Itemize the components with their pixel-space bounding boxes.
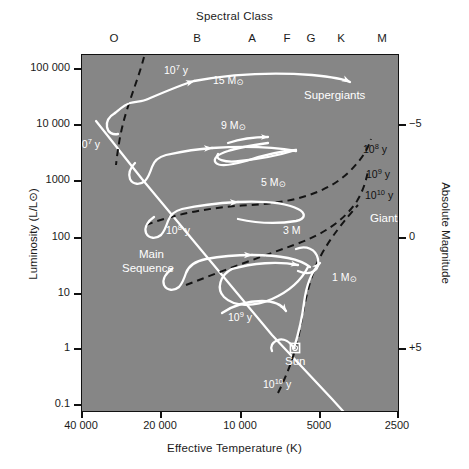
annotation-isochrone-1e10-low: 1010 y — [263, 378, 291, 390]
sun-symbol-icon: ⊙ — [236, 77, 243, 87]
x-axis-title: Effective Temperature (K) — [0, 442, 469, 454]
hr-diagram-figure: Spectral Class Effective Temperature (K)… — [0, 0, 469, 469]
annotation-mass-15-msun: 15 M⊙ — [213, 74, 243, 87]
y2-tick-mark — [399, 124, 406, 126]
y2-tick-label: +5 — [409, 341, 469, 353]
track-1-msun — [294, 263, 320, 348]
annotation-mass-5-msun: 5 M⊙ — [261, 176, 286, 189]
sun-symbol-icon: ⊙ — [279, 179, 286, 189]
annotation-text: 10 — [263, 378, 275, 390]
annotation-isochrone-1e7-top: 107 y — [164, 64, 188, 76]
spectral-class-M: M — [367, 32, 397, 44]
annotation-text: 3 M — [283, 224, 301, 236]
isochrone-1e7 — [116, 57, 144, 165]
region-label-supergiants: Supergiants — [304, 89, 365, 101]
annotation-suffix: y — [182, 224, 190, 236]
annotation-suffix: y — [180, 64, 188, 76]
annotation-suffix: y — [379, 143, 387, 155]
y-tick-label: 100 000 — [0, 61, 70, 73]
x-tick-label: 20 000 — [125, 419, 195, 431]
annotation-text: 5 M — [261, 176, 279, 188]
y-tick-label: 0.1 — [0, 397, 70, 409]
y-tick-label: 10 — [0, 286, 70, 298]
y2-tick-mark — [399, 348, 406, 350]
track-giant-loop — [232, 263, 298, 269]
annotation-text: 10 — [363, 143, 375, 155]
spectral-class-title: Spectral Class — [0, 10, 469, 22]
y-tick-mark — [74, 124, 81, 126]
x-tick-mark — [240, 411, 242, 418]
annotation-text: 1 M — [332, 271, 350, 283]
x-tick-mark — [319, 411, 321, 418]
y2-tick-label: −5 — [409, 117, 469, 129]
plot-area: 107 y 107 y 15 M⊙ 9 M⊙ 5 M⊙ 3 M 1 M⊙ Sup… — [81, 54, 399, 412]
annotation-mass-9-msun: 9 M⊙ — [221, 119, 246, 132]
x-tick-label: 10 000 — [205, 419, 275, 431]
y-tick-mark — [74, 180, 81, 182]
x-tick-label: 40 000 — [46, 419, 116, 431]
y-tick-label: 1000 — [0, 173, 70, 185]
annotation-isochrone-1e8-left: 108 y — [166, 224, 190, 236]
region-label-giants: Giants — [370, 212, 399, 224]
annotation-suffix: y — [244, 311, 252, 323]
spectral-class-A: A — [237, 32, 267, 44]
x-tick-mark — [397, 411, 399, 418]
y2-tick-mark — [399, 237, 406, 239]
annotation-isochrone-1e9-low: 109 y — [228, 311, 252, 323]
y-tick-label: 100 — [0, 230, 70, 242]
annotation-exponent: 10 — [377, 188, 385, 197]
sun-symbol-icon: ⊙ — [239, 122, 246, 132]
annotation-isochrone-1e10-right: 1010 y — [365, 189, 393, 201]
isochrone-lines — [116, 57, 371, 393]
track-15-msun-hook — [107, 113, 118, 134]
annotation-text: 15 M — [213, 74, 236, 86]
y-tick-mark — [74, 68, 81, 70]
sun-symbol-icon: ⊙ — [350, 274, 357, 284]
annotation-mass-3-msun: 3 M — [283, 224, 301, 236]
spectral-class-O: O — [99, 32, 129, 44]
region-label-main-sequence-line2: Sequence — [122, 262, 174, 274]
track-loop-upper — [228, 137, 268, 143]
annotation-text: 10 — [228, 311, 240, 323]
annotation-suffix: y — [385, 189, 393, 201]
annotation-text: 10 — [366, 168, 378, 180]
annotation-isochrone-1e9-right: 109 y — [366, 168, 390, 180]
track-3-msun-b — [252, 255, 310, 267]
region-label-main-sequence-line1: Main — [139, 248, 164, 260]
annotation-text: 10 — [365, 189, 377, 201]
spectral-class-B: B — [182, 32, 212, 44]
annotation-text: 9 M — [221, 119, 239, 131]
x-tick-mark — [81, 411, 83, 418]
annotation-text: 10 — [164, 64, 176, 76]
annotation-exponent: 10 — [275, 377, 283, 386]
y-tick-mark — [74, 237, 81, 239]
sun-label: Sun — [285, 355, 305, 367]
x-tick-label: 2500 — [362, 419, 432, 431]
annotation-suffix: y — [283, 378, 291, 390]
y-tick-label: 1 — [0, 341, 70, 353]
spectral-class-G: G — [296, 32, 326, 44]
y2-tick-label: 0 — [409, 230, 469, 242]
annotation-suffix: y — [382, 168, 390, 180]
annotation-isochrone-1e7-left: 107 y — [81, 138, 100, 150]
hr-diagram-curves — [82, 55, 399, 412]
track-5-msun-b — [238, 202, 304, 223]
annotation-mass-1-msun: 1 M⊙ — [332, 271, 357, 284]
y-tick-mark — [74, 348, 81, 350]
annotation-text: 10 — [166, 224, 178, 236]
x-tick-mark — [160, 411, 162, 418]
track-giant-loop-c — [220, 267, 308, 305]
annotation-suffix: y — [92, 138, 100, 150]
annotation-text: 10 — [81, 138, 88, 150]
y-tick-label: 10 000 — [0, 117, 70, 129]
y-tick-mark — [74, 293, 81, 295]
spectral-class-K: K — [326, 32, 356, 44]
track-3-msun — [163, 255, 252, 290]
y-tick-mark — [74, 404, 81, 406]
annotation-isochrone-1e8-right: 108 y — [363, 143, 387, 155]
x-tick-label: 5000 — [284, 419, 354, 431]
